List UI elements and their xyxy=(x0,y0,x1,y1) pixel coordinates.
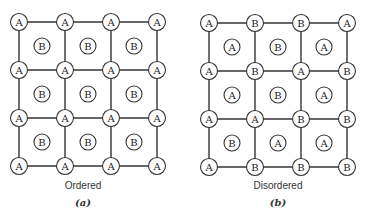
svg-text:B: B xyxy=(251,162,258,173)
corner-atom-b: B xyxy=(247,15,264,32)
corner-atom-b: B xyxy=(339,111,356,128)
svg-text:B: B xyxy=(228,138,235,149)
corner-atom-a: A xyxy=(57,110,74,127)
corner-atom-a: A xyxy=(103,14,120,31)
svg-text:A: A xyxy=(106,161,115,172)
corner-atom-b: B xyxy=(339,159,356,176)
corner-atom-b: B xyxy=(247,159,264,176)
svg-text:A: A xyxy=(319,90,328,101)
center-atom-b: B xyxy=(126,38,142,54)
corner-atom-a: A xyxy=(57,14,74,31)
center-atom-a: A xyxy=(224,87,240,103)
svg-text:B: B xyxy=(38,89,45,100)
corner-atom-a: A xyxy=(103,62,120,79)
center-atom-b: B xyxy=(126,86,142,102)
center-atom-b: B xyxy=(270,87,286,103)
center-atom-b: B xyxy=(34,134,50,150)
svg-text:B: B xyxy=(274,90,281,101)
corner-atom-a: A xyxy=(11,14,28,31)
svg-text:A: A xyxy=(14,65,23,76)
corner-atom-a: A xyxy=(149,158,166,175)
corner-atom-a: A xyxy=(11,62,28,79)
center-atom-b: B xyxy=(80,38,96,54)
svg-text:A: A xyxy=(319,138,328,149)
caption-disordered: Disordered xyxy=(254,180,303,191)
svg-text:B: B xyxy=(84,89,91,100)
svg-text:A: A xyxy=(227,90,236,101)
svg-text:A: A xyxy=(296,66,305,77)
svg-text:B: B xyxy=(130,41,137,52)
corner-atom-a: A xyxy=(103,110,120,127)
svg-text:B: B xyxy=(274,42,281,53)
svg-text:A: A xyxy=(14,113,23,124)
svg-text:B: B xyxy=(38,41,45,52)
svg-text:A: A xyxy=(342,18,351,29)
corner-atom-b: B xyxy=(339,63,356,80)
corner-atom-a: A xyxy=(57,158,74,175)
lattice-figure: AAAAAAAAAAAAAAAABBBBBBBBB ABBAABABAABBAB… xyxy=(0,0,366,218)
center-atom-b: B xyxy=(224,135,240,151)
subfigure-label-b: (b) xyxy=(270,197,287,208)
center-atom-b: B xyxy=(80,134,96,150)
svg-text:A: A xyxy=(106,17,115,28)
corner-atom-b: B xyxy=(247,63,264,80)
center-atom-a: A xyxy=(316,87,332,103)
svg-text:B: B xyxy=(297,114,304,125)
center-atom-a: A xyxy=(316,39,332,55)
svg-text:B: B xyxy=(251,18,258,29)
caption-ordered: Ordered xyxy=(65,180,102,191)
svg-text:A: A xyxy=(60,161,69,172)
center-atom-b: B xyxy=(34,38,50,54)
disordered-lattice-diagram: ABBAABABAABBABBBABAABABAA xyxy=(201,15,356,176)
svg-text:A: A xyxy=(60,17,69,28)
corner-atom-b: B xyxy=(293,15,310,32)
center-atom-b: B xyxy=(126,134,142,150)
svg-text:B: B xyxy=(343,114,350,125)
svg-text:A: A xyxy=(14,17,23,28)
corner-atom-a: A xyxy=(293,63,310,80)
svg-text:A: A xyxy=(204,18,213,29)
corner-atom-b: B xyxy=(293,111,310,128)
svg-text:A: A xyxy=(106,113,115,124)
corner-atom-a: A xyxy=(57,62,74,79)
svg-text:A: A xyxy=(106,65,115,76)
corner-atom-a: A xyxy=(201,111,218,128)
center-atom-a: A xyxy=(316,135,332,151)
svg-text:B: B xyxy=(343,66,350,77)
svg-text:A: A xyxy=(204,114,213,125)
svg-text:A: A xyxy=(227,42,236,53)
subfigure-label-a: (a) xyxy=(75,197,91,208)
corner-atom-a: A xyxy=(201,15,218,32)
svg-text:B: B xyxy=(343,162,350,173)
svg-text:A: A xyxy=(250,114,259,125)
corner-atom-a: A xyxy=(11,158,28,175)
corner-atom-a: A xyxy=(201,159,218,176)
svg-text:B: B xyxy=(297,18,304,29)
svg-text:B: B xyxy=(84,41,91,52)
svg-text:B: B xyxy=(297,162,304,173)
svg-text:A: A xyxy=(319,42,328,53)
corner-atom-a: A xyxy=(339,15,356,32)
svg-text:A: A xyxy=(152,65,161,76)
corner-atom-a: A xyxy=(11,110,28,127)
svg-text:A: A xyxy=(152,113,161,124)
svg-text:B: B xyxy=(38,137,45,148)
svg-text:A: A xyxy=(273,138,282,149)
svg-text:A: A xyxy=(204,66,213,77)
corner-atom-a: A xyxy=(149,14,166,31)
svg-text:A: A xyxy=(204,162,213,173)
svg-text:A: A xyxy=(14,161,23,172)
corner-atom-a: A xyxy=(201,63,218,80)
svg-text:B: B xyxy=(84,137,91,148)
corner-atom-a: A xyxy=(103,158,120,175)
svg-text:A: A xyxy=(152,17,161,28)
svg-text:A: A xyxy=(152,161,161,172)
center-atom-b: B xyxy=(80,86,96,102)
center-atom-a: A xyxy=(224,39,240,55)
corner-atom-b: B xyxy=(293,159,310,176)
corner-atom-a: A xyxy=(247,111,264,128)
ordered-lattice-diagram: AAAAAAAAAAAAAAAABBBBBBBBB xyxy=(11,14,166,175)
svg-text:A: A xyxy=(60,65,69,76)
svg-text:B: B xyxy=(130,137,137,148)
svg-text:B: B xyxy=(130,89,137,100)
